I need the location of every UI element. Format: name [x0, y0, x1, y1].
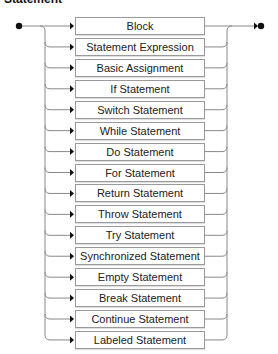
branch-out — [204, 230, 227, 235]
choice-empty-statement: Empty Statement — [75, 268, 205, 286]
arrow-icon — [70, 274, 74, 281]
arrow-icon — [70, 85, 74, 92]
branch-in — [45, 63, 73, 68]
arrow-icon — [70, 190, 74, 197]
choice-try-statement: Try Statement — [75, 226, 205, 244]
arrow-icon — [70, 169, 74, 176]
branch-out — [204, 209, 227, 214]
branch-out — [204, 188, 227, 193]
branch-out — [204, 105, 227, 110]
branch-out — [204, 84, 227, 89]
branch-out — [204, 168, 227, 173]
end-dot-icon — [258, 23, 264, 29]
branch-in — [45, 168, 73, 173]
branch-in — [45, 230, 73, 235]
arrow-icon — [70, 316, 74, 323]
branch-in — [45, 188, 73, 193]
choice-synchronized-statement: Synchronized Statement — [75, 247, 205, 265]
branch-in — [45, 251, 73, 256]
branch-in — [45, 147, 73, 152]
branch-in — [45, 209, 73, 214]
arrow-icon — [70, 148, 74, 155]
arrow-icon — [70, 43, 74, 50]
choice-do-statement: Do Statement — [75, 143, 205, 161]
branch-out — [204, 314, 227, 319]
choice-throw-statement: Throw Statement — [75, 205, 205, 223]
arrow-icon — [70, 295, 74, 302]
arrow-icon — [70, 253, 74, 260]
branch-out — [204, 63, 227, 68]
arrow-icon — [70, 23, 74, 30]
branch-in — [45, 314, 73, 319]
choice-basic-assignment: Basic Assignment — [75, 59, 205, 77]
branch-out — [204, 126, 227, 131]
branch-in — [45, 105, 73, 110]
branch-in — [45, 272, 73, 277]
choice-labeled-statement: Labeled Statement — [75, 331, 205, 349]
arrow-icon — [70, 106, 74, 113]
branch-out — [204, 147, 227, 152]
branch-out — [204, 42, 227, 47]
arrow-icon — [70, 64, 74, 71]
arrow-icon — [70, 127, 74, 134]
branch-in — [45, 335, 73, 340]
branch-in — [45, 84, 73, 89]
branch-out — [204, 272, 227, 277]
branch-out — [204, 251, 227, 256]
choice-continue-statement: Continue Statement — [75, 310, 205, 328]
choice-for-statement: For Statement — [75, 164, 205, 182]
branch-out — [204, 293, 227, 298]
left-rail — [40, 26, 45, 335]
start-dot-icon — [16, 23, 22, 29]
branch-in — [45, 293, 73, 298]
choice-return-statement: Return Statement — [75, 184, 205, 202]
choice-switch-statement: Switch Statement — [75, 101, 205, 119]
arrow-icon — [70, 211, 74, 218]
branch-in — [45, 42, 73, 47]
arrow-icon — [70, 232, 74, 239]
right-rail — [227, 26, 232, 335]
choice-block: Block — [75, 17, 205, 35]
choice-break-statement: Break Statement — [75, 289, 205, 307]
branch-in — [45, 126, 73, 131]
arrow-icon — [70, 336, 74, 343]
choice-while-statement: While Statement — [75, 122, 205, 140]
choice-if-statement: If Statement — [75, 80, 205, 98]
choice-statement-expression: Statement Expression — [75, 38, 205, 56]
branch-out — [204, 335, 227, 340]
end-arrow-icon — [254, 23, 258, 30]
